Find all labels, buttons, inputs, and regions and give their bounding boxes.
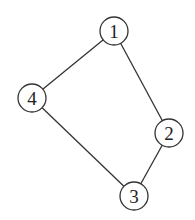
node-4-label: 4: [27, 88, 37, 109]
node-2: 2: [155, 119, 183, 147]
graph-diagram: 1 2 3 4: [0, 0, 195, 220]
node-1-label: 1: [109, 21, 119, 42]
node-3: 3: [120, 182, 148, 210]
node-4: 4: [18, 84, 46, 112]
node-2-label: 2: [164, 123, 174, 144]
edge-4-3: [32, 98, 134, 196]
edges: [32, 31, 169, 196]
node-3-label: 3: [129, 186, 139, 207]
node-1: 1: [100, 17, 128, 45]
edge-1-2: [114, 31, 169, 133]
edge-1-4: [32, 31, 114, 98]
